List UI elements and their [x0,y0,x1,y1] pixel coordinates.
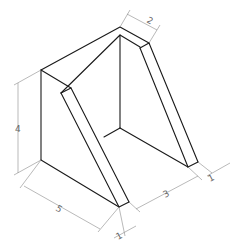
dim-label-left-wall: 1 [114,230,124,242]
dim-label-inner-width: 3 [161,188,171,200]
isometric-drawing: 2 4 5 3 1 1 [0,0,242,246]
object-outline [41,27,198,207]
dim-label-depth: 5 [54,203,64,215]
dim-label-right-wall: 1 [206,172,216,184]
dimension-lines [14,10,230,238]
dim-label-height: 4 [15,124,21,134]
